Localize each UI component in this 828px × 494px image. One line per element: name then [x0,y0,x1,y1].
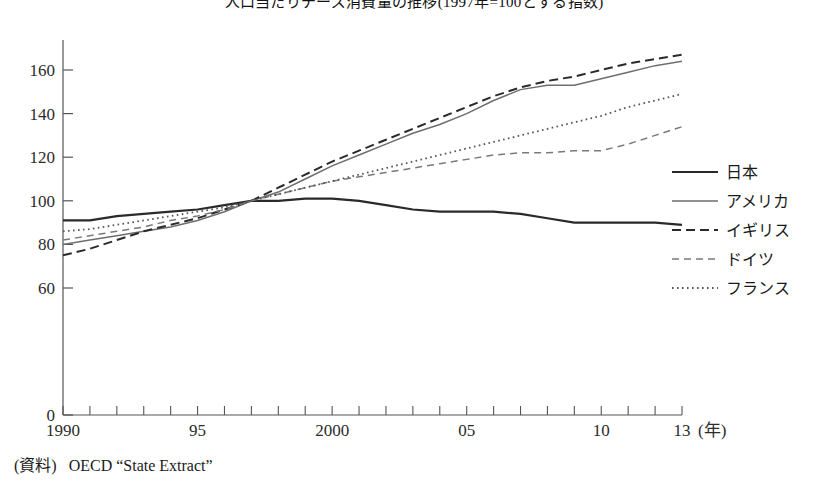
series-line [63,55,682,256]
y-axis-tick-labels: 06080100120140160 [30,61,56,425]
legend-label: 日本 [726,164,758,181]
legend-label: アメリカ [726,193,789,210]
y-tick-label: 140 [30,105,56,124]
x-tick-label: 95 [189,421,206,440]
y-tick-label: 60 [38,279,55,298]
series-line [63,199,682,225]
source-note: (資料)OECD “State Extract” [14,452,213,476]
legend-label: イギリス [726,222,790,239]
x-tick-label: 13 [674,421,691,440]
y-tick-label: 120 [30,148,56,167]
y-tick-label: 80 [38,235,55,254]
x-tick-label: 2000 [315,421,349,440]
plot-area: 06080100120140160 1990952000051013(年) [30,40,727,440]
legend-label: ドイツ [726,251,774,268]
x-tick-label: 10 [593,421,610,440]
series-line [63,94,682,231]
chart-legend: 日本アメリカイギリスドイツフランス [672,164,790,297]
y-tick-label: 100 [30,192,56,211]
chart-container: 人口当たりチーズ消費量の推移(1997年=100とする指数) 060801001… [0,0,828,494]
source-text: OECD “State Extract” [69,457,213,474]
y-tick-label: 160 [30,61,56,80]
legend-label: フランス [726,280,790,297]
series-line [63,61,682,244]
series-lines-group [63,55,682,256]
x-tick-label: 05 [458,421,475,440]
source-label: (資料) [14,457,57,474]
x-axis-tick-labels: 1990952000051013(年) [46,421,726,440]
x-axis-ticks [63,406,682,415]
x-tick-label: 1990 [46,421,80,440]
chart-svg: 06080100120140160 1990952000051013(年) 日本… [0,0,828,494]
x-axis-unit-label: (年) [698,421,726,440]
